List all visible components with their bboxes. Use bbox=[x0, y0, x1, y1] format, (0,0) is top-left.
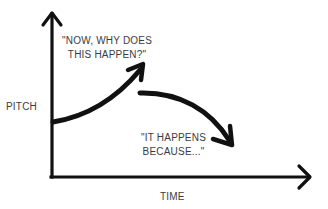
rise-quote: "NOW, WHY DOES THIS HAPPEN?" bbox=[62, 34, 152, 62]
y-axis bbox=[43, 13, 61, 177]
pitch-time-diagram: PITCH TIME "NOW, WHY DOES THIS HAPPEN?" … bbox=[0, 0, 328, 209]
x-axis-label: TIME bbox=[160, 190, 185, 204]
diagram-drawing bbox=[0, 0, 328, 209]
fall-quote-line1: "IT HAPPENS bbox=[141, 131, 206, 145]
fall-quote: "IT HAPPENS BECAUSE..." bbox=[141, 131, 206, 159]
fall-quote-line2: BECAUSE..." bbox=[141, 145, 206, 159]
rise-quote-line2: THIS HAPPEN?" bbox=[62, 48, 152, 62]
x-axis bbox=[51, 166, 310, 188]
y-axis-label: PITCH bbox=[6, 100, 37, 114]
rise-quote-line1: "NOW, WHY DOES bbox=[62, 34, 152, 48]
rising-pitch-arrow bbox=[53, 64, 143, 122]
